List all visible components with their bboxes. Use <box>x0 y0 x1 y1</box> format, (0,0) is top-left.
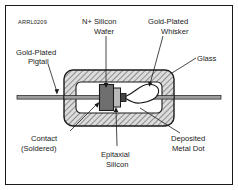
deposited-metal-dot <box>121 94 127 102</box>
label-whisker: Gold-Plated Whisker <box>148 17 189 36</box>
figure-container: ARRL0209 Gold-Plated Pigtail N+ Silicon … <box>0 0 238 190</box>
label-contact-line1: Contact <box>31 134 58 143</box>
label-wafer-line1: N+ Silicon <box>82 17 116 26</box>
label-glass: Glass <box>197 54 217 63</box>
label-metal-dot-line1: Deposited <box>171 134 205 143</box>
silicon-wafer-block <box>100 85 114 111</box>
lead-left <box>17 96 69 100</box>
label-pigtail-line1: Gold-Plated <box>16 48 56 57</box>
epitaxial-silicon-layer <box>114 88 121 107</box>
label-wafer-line2: Wafer <box>94 27 114 36</box>
label-wafer: N+ Silicon Wafer <box>82 17 116 36</box>
label-epitaxial-line2: Silicon <box>106 160 128 169</box>
label-pigtail: Gold-Plated Pigtail <box>16 48 56 66</box>
label-epitaxial-line1: Epitaxial <box>101 150 130 159</box>
label-contact-line2: (Soldered) <box>21 144 57 153</box>
label-contact: Contact (Soldered) <box>21 134 58 153</box>
label-pigtail-line2: Pigtail <box>28 57 49 66</box>
label-whisker-line2: Whisker <box>161 27 189 36</box>
lead-stub-left <box>64 96 100 100</box>
diagram-canvas: ARRL0209 Gold-Plated Pigtail N+ Silicon … <box>0 0 238 190</box>
label-glass-line1: Glass <box>197 54 217 63</box>
label-epitaxial: Epitaxial Silicon <box>101 150 130 169</box>
label-whisker-line1: Gold-Plated <box>148 17 188 26</box>
label-metal-dot-line2: Metal Dot <box>172 144 205 153</box>
lead-right <box>169 96 221 100</box>
figure-id-label: ARRL0209 <box>18 19 47 25</box>
label-metal-dot: Deposited Metal Dot <box>171 134 205 153</box>
